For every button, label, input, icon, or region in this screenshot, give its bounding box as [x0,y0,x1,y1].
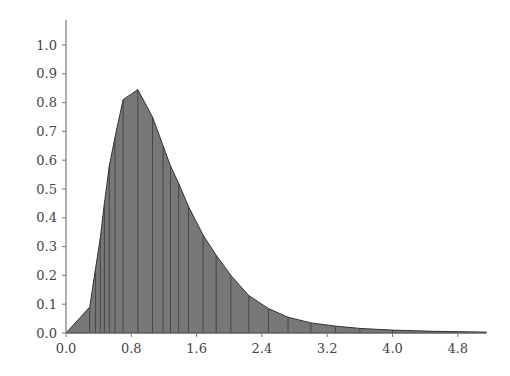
x-tick-label: 4.0 [382,341,403,356]
y-tick-label: 0.8 [36,95,57,110]
plot-area [66,90,486,333]
y-tick-label: 0.4 [36,210,57,225]
x-tick-label: 1.6 [186,341,207,356]
y-tick-label: 0.2 [36,268,57,283]
x-tick-label: 0.8 [121,341,142,356]
y-tick-label: 0.1 [36,297,57,312]
x-tick-label: 0.0 [56,341,77,356]
y-tick-label: 0.7 [36,124,57,139]
y-tick-label: 0.0 [36,326,57,341]
x-tick-label: 2.4 [252,341,273,356]
y-tick-label: 0.6 [36,153,57,168]
x-tick-label: 4.8 [447,341,468,356]
x-tick-label: 3.2 [317,341,338,356]
x-axis-ticks: 0.00.81.62.43.24.04.8 [56,333,468,356]
y-tick-label: 0.9 [36,66,57,81]
y-tick-label: 0.5 [36,182,57,197]
y-tick-label: 1.0 [36,38,57,53]
y-tick-label: 0.3 [36,239,57,254]
density-area [66,90,486,333]
area-chart: 0.00.10.20.30.40.50.60.70.80.91.0 0.00.8… [0,0,510,376]
y-axis-ticks: 0.00.10.20.30.40.50.60.70.80.91.0 [36,38,66,341]
